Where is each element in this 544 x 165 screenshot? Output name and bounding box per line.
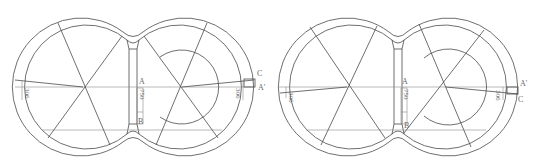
label-b: B: [138, 117, 143, 126]
label-a: A: [139, 77, 145, 86]
left-radials: [15, 23, 122, 145]
figure-right: A B A' C 306 750 306: [278, 18, 527, 156]
dim-left-306: 306: [287, 92, 295, 103]
label-c: C: [518, 95, 523, 104]
figure-left: A B C A' 306 750 306: [12, 18, 265, 156]
dim-left-306: 306: [23, 88, 31, 99]
label-a: A: [402, 77, 408, 86]
label-a-prime: A': [520, 79, 528, 88]
diagram-canvas: A B C A' 306 750 306 A B A': [0, 0, 544, 165]
label-b: B: [404, 121, 409, 130]
dim-right-306: 306: [234, 88, 242, 99]
dim-center-750: 750: [402, 89, 410, 100]
label-c: C: [257, 69, 262, 78]
dim-right-306: 306: [494, 90, 502, 101]
left-radials: [280, 26, 385, 145]
label-a-prime: A': [258, 83, 266, 92]
right-radials: [144, 23, 254, 145]
dim-center-750: 750: [138, 89, 146, 100]
